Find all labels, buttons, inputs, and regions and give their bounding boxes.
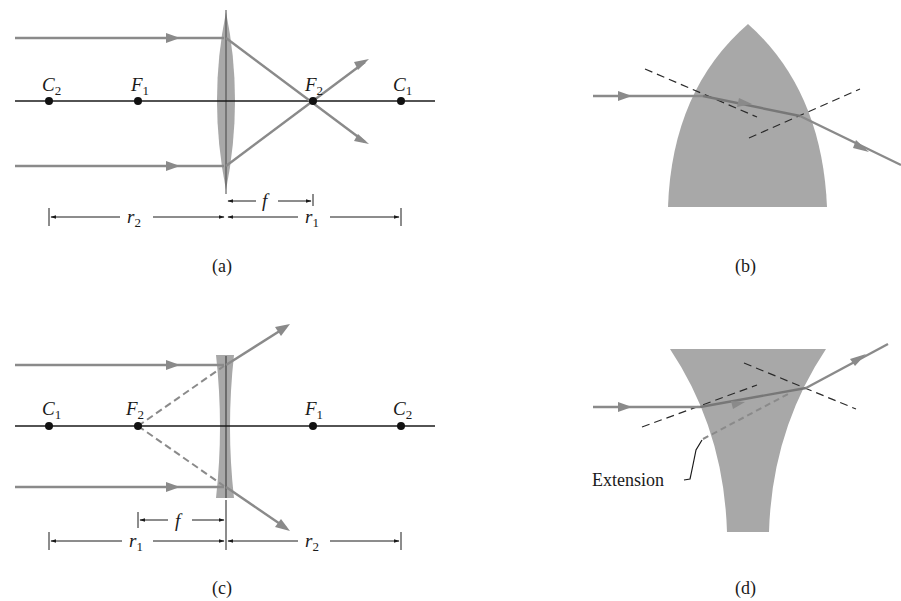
label-r1-a: r1: [305, 206, 319, 230]
panel-d: Extension (d): [592, 344, 888, 599]
caption-b: (b): [735, 256, 756, 277]
label-f2: F2: [304, 74, 323, 98]
point-f2: [134, 422, 142, 430]
concave-glass-block: [670, 349, 826, 532]
label-f-a: f: [262, 190, 270, 211]
lens-diagram-figure: C2 F1 F2 C1 f r2 r1 (a) (b): [0, 0, 901, 601]
point-c1: [45, 422, 53, 430]
point-f1: [309, 422, 317, 430]
panel-b: (b): [593, 24, 901, 277]
point-c2: [397, 422, 405, 430]
panel-a: C2 F1 F2 C1 f r2 r1 (a): [15, 10, 435, 277]
extension-label: Extension: [592, 470, 664, 490]
caption-c: (c): [212, 578, 232, 599]
caption-a: (a): [212, 256, 232, 277]
label-c2: C2: [393, 398, 412, 422]
label-f-c: f: [175, 510, 183, 531]
label-r1-c: r1: [129, 530, 143, 554]
label-c1: C1: [393, 74, 412, 98]
label-r2-a: r2: [127, 206, 141, 230]
point-c2: [45, 97, 53, 105]
point-c1: [397, 97, 405, 105]
point-f1: [134, 97, 142, 105]
label-f1: F1: [130, 74, 149, 98]
convex-glass-block: [668, 24, 827, 207]
panel-c: C1 F2 F1 C2 f r1 r2 (c): [15, 324, 435, 599]
label-f2: F2: [125, 398, 144, 422]
label-f1: F1: [304, 398, 323, 422]
label-c1: C1: [42, 398, 61, 422]
label-c2: C2: [42, 74, 61, 98]
caption-d: (d): [735, 578, 756, 599]
label-r2-c: r2: [305, 530, 319, 554]
point-f2: [309, 97, 317, 105]
